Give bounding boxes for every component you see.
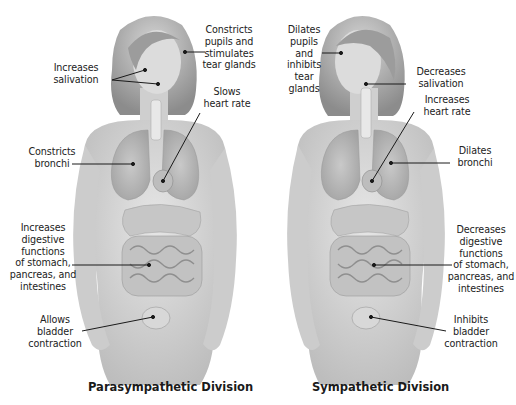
- label-heart-sympathetic: Increases heart rate: [414, 94, 480, 118]
- label-heart-parasympathetic: Slows heart rate: [196, 86, 258, 110]
- caption-parasympathetic: Parasympathetic Division: [88, 380, 253, 394]
- label-salivation-parasympathetic: Increases salivation: [40, 62, 112, 86]
- label-digestion-parasympathetic: Increases digestive functions of stomach…: [6, 222, 80, 293]
- intestines: [122, 236, 202, 296]
- intestines: [330, 236, 410, 296]
- sympathetic-panel: Dilates pupils and inhibits tear glands …: [258, 0, 516, 405]
- label-bronchi-parasympathetic: Constricts bronchi: [20, 146, 84, 170]
- label-bladder-sympathetic: Inhibits bladder contraction: [438, 314, 504, 349]
- label-eyes-sympathetic: Dilates pupils and inhibits tear glands: [282, 24, 326, 95]
- label-bronchi-sympathetic: Dilates bronchi: [450, 145, 500, 169]
- parasympathetic-panel: Constricts pupils and stimulates tear gl…: [0, 0, 258, 405]
- label-digestion-sympathetic: Decreases digestive functions of stomach…: [444, 224, 516, 295]
- label-salivation-sympathetic: Decreases salivation: [408, 66, 474, 90]
- caption-sympathetic: Sympathetic Division: [312, 380, 449, 394]
- label-bladder-parasympathetic: Allows bladder contraction: [24, 314, 86, 349]
- label-eyes-parasympathetic: Constricts pupils and stimulates tear gl…: [194, 24, 264, 71]
